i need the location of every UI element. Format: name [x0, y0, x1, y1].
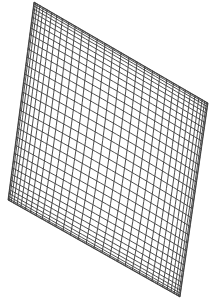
wire-curve [16, 137, 189, 235]
wire-curve [15, 145, 188, 243]
wire-curve [10, 185, 182, 282]
wire-curve [11, 174, 183, 272]
wire-curve [36, 18, 62, 215]
wire-curve [34, 4, 208, 105]
wire-curve [26, 65, 199, 165]
wireframe-figure [0, 0, 217, 301]
wire-curve [31, 28, 205, 128]
wire-curve [33, 12, 207, 113]
wire-curve [22, 92, 195, 191]
wire-curve [34, 2, 208, 103]
wireframe-lines [8, 2, 208, 297]
wire-curve [32, 17, 206, 118]
wire-curve [23, 83, 196, 182]
wire-curve [20, 110, 193, 209]
wire-curve [158, 90, 186, 285]
wire-curve [9, 190, 181, 287]
wire-curve [34, 6, 208, 107]
wire-curve [33, 9, 207, 110]
wire-curve [9, 193, 181, 290]
wire-curve [11, 180, 183, 277]
wire-curve [21, 101, 194, 200]
wire-curve [9, 196, 181, 293]
